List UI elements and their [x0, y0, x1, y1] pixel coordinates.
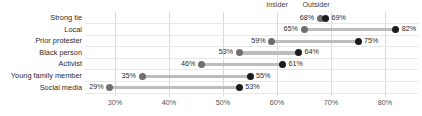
value-label-outsider: 55%: [256, 71, 270, 81]
value-label-insider: 59%: [251, 36, 265, 46]
connector-bar: [142, 75, 250, 78]
value-label-insider: 68%: [300, 13, 314, 23]
value-label-insider: 53%: [219, 47, 233, 57]
x-tick-label: 40%: [162, 98, 176, 108]
data-point-outsider[interactable]: [295, 49, 302, 56]
chart-row: Activist46%61%: [0, 58, 422, 70]
value-label-insider: 46%: [181, 59, 195, 69]
row-label-young-family-member: Young family member: [0, 71, 82, 80]
data-point-outsider[interactable]: [392, 26, 399, 33]
row-label-black-person: Black person: [0, 48, 82, 57]
chart-row: Local65%82%: [0, 24, 422, 36]
value-label-outsider: 53%: [245, 82, 259, 92]
row-label-social-media: Social media: [0, 83, 82, 92]
series-annotation-insider: Insider: [266, 0, 288, 9]
x-tick-label: 30%: [108, 98, 122, 108]
dumbbell-chart: Insider Outsider Strong tie68%69%Local65…: [0, 0, 422, 116]
data-point-outsider[interactable]: [322, 15, 329, 22]
value-label-outsider: 82%: [402, 24, 416, 34]
data-point-insider[interactable]: [139, 73, 146, 80]
connector-bar: [304, 28, 396, 31]
series-annotation-outsider: Outsider: [302, 0, 329, 9]
data-point-outsider[interactable]: [236, 84, 243, 91]
value-label-outsider: 64%: [305, 47, 319, 57]
chart-row: Black person53%64%: [0, 47, 422, 59]
data-point-outsider[interactable]: [355, 38, 362, 45]
chart-row: Prior protester59%75%: [0, 35, 422, 47]
value-label-outsider: 61%: [288, 59, 302, 69]
value-label-outsider: 69%: [332, 13, 346, 23]
value-label-insider: 29%: [89, 82, 103, 92]
data-point-outsider[interactable]: [279, 61, 286, 68]
connector-bar: [110, 86, 240, 89]
data-point-insider[interactable]: [301, 26, 308, 33]
row-label-strong-tie: Strong tie: [0, 13, 82, 22]
chart-row: Strong tie68%69%: [0, 12, 422, 24]
row-label-local: Local: [0, 25, 82, 34]
plot-area: Strong tie68%69%Local65%82%Prior protest…: [0, 12, 422, 96]
row-label-prior-protester: Prior protester: [0, 36, 82, 45]
chart-rows: Strong tie68%69%Local65%82%Prior protest…: [0, 12, 422, 96]
value-label-outsider: 75%: [364, 36, 378, 46]
chart-row: Young family member35%55%: [0, 70, 422, 82]
x-tick-label: 70%: [324, 98, 338, 108]
data-point-insider[interactable]: [198, 61, 205, 68]
value-label-insider: 65%: [284, 24, 298, 34]
value-label-insider: 35%: [122, 71, 136, 81]
x-tick-label: 50%: [216, 98, 230, 108]
data-point-insider[interactable]: [236, 49, 243, 56]
row-label-activist: Activist: [0, 59, 82, 68]
x-axis: 30%40%50%60%70%80%: [0, 98, 422, 112]
connector-bar: [201, 63, 282, 66]
data-point-insider[interactable]: [106, 84, 113, 91]
connector-bar: [272, 40, 358, 43]
data-point-insider[interactable]: [268, 38, 275, 45]
connector-bar: [239, 51, 298, 54]
data-point-outsider[interactable]: [247, 73, 254, 80]
chart-row: Social media29%53%: [0, 82, 422, 94]
x-tick-label: 60%: [270, 98, 284, 108]
row-baseline: [85, 93, 419, 94]
x-tick-label: 80%: [378, 98, 392, 108]
